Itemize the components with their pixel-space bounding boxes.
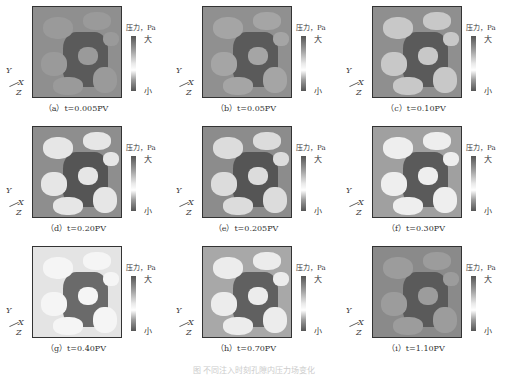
legend-title: 压力，Pa — [296, 22, 326, 32]
grain — [41, 292, 67, 316]
grain — [418, 287, 438, 305]
axis-y-label: Y — [176, 66, 181, 75]
grain — [43, 137, 73, 159]
grain — [41, 172, 67, 196]
panel-caption: （d）t=0.20PV — [0, 222, 152, 233]
grain — [433, 187, 457, 213]
grain — [53, 317, 83, 335]
axis-x-label: X — [188, 78, 194, 87]
grain — [248, 47, 268, 65]
grain — [103, 272, 119, 286]
grain — [443, 272, 459, 286]
colorbar — [471, 276, 476, 331]
axis-triad: YXZ — [344, 186, 370, 220]
axis-y-label: Y — [6, 186, 11, 195]
panel-caption: （f）t=0.30PV — [340, 222, 492, 233]
colorbar — [301, 156, 306, 211]
grain — [381, 292, 407, 316]
legend-high: 大 — [484, 153, 492, 164]
grain — [53, 77, 83, 95]
legend-low: 小 — [484, 205, 492, 216]
legend-high: 大 — [144, 273, 152, 284]
pressure-field-image — [32, 6, 122, 98]
axis-x-label: X — [18, 318, 24, 327]
axis-z-label: Z — [16, 88, 22, 97]
axis-z-label: Z — [16, 328, 22, 337]
grain — [223, 197, 253, 215]
axis-y-label: Y — [176, 306, 181, 315]
axis-z-label: Z — [186, 328, 192, 337]
figure-panel: 压力，Pa大小YXZ（a）t=0.005PV — [0, 2, 169, 119]
grain — [263, 67, 287, 93]
grain — [78, 167, 98, 185]
legend-low: 小 — [484, 325, 492, 336]
grain — [223, 77, 253, 95]
legend-high: 大 — [484, 273, 492, 284]
axis-x-label: X — [358, 198, 364, 207]
legend-high: 大 — [144, 33, 152, 44]
pressure-field-image — [32, 246, 122, 338]
colorbar — [131, 36, 136, 91]
grain — [393, 317, 423, 335]
grain — [248, 287, 268, 305]
grain — [213, 17, 243, 39]
grain — [83, 132, 111, 150]
axis-z-label: Z — [356, 88, 362, 97]
grain — [248, 167, 268, 185]
grain — [213, 137, 243, 159]
grain — [83, 12, 111, 30]
legend-high: 大 — [144, 153, 152, 164]
axis-y-label: Y — [6, 66, 11, 75]
axis-x-label: X — [18, 78, 24, 87]
pressure-field-image — [202, 6, 292, 98]
grain — [78, 287, 98, 305]
axis-x-label: X — [188, 198, 194, 207]
figure-panel: 压力，Pa大小YXZ（c）t=0.10PV — [340, 2, 508, 119]
legend-low: 小 — [314, 205, 322, 216]
legend-title: 压力，Pa — [466, 142, 496, 152]
legend-title: 压力，Pa — [466, 262, 496, 272]
colorbar — [301, 276, 306, 331]
panel-caption: （i）t=1.10PV — [340, 342, 492, 353]
axis-z-label: Z — [356, 208, 362, 217]
panel-caption: （b）t=0.05PV — [170, 102, 322, 113]
grain — [43, 257, 73, 279]
axis-z-label: Z — [186, 88, 192, 97]
panel-caption: （c）t=0.10PV — [340, 102, 492, 113]
grain — [273, 32, 289, 46]
pressure-field-image — [372, 246, 462, 338]
grain — [383, 17, 413, 39]
pressure-field-image — [202, 126, 292, 218]
figure-panel: 压力，Pa大小YXZ（f）t=0.30PV — [340, 122, 508, 239]
grain — [211, 172, 237, 196]
grain — [41, 52, 67, 76]
colorbar — [131, 276, 136, 331]
pressure-field-image — [372, 126, 462, 218]
grain — [273, 272, 289, 286]
axis-x-label: X — [18, 198, 24, 207]
axis-y-label: Y — [346, 306, 351, 315]
axis-triad: YXZ — [174, 186, 200, 220]
legend-title: 压力，Pa — [296, 262, 326, 272]
grain — [263, 307, 287, 333]
grain — [423, 252, 451, 270]
legend-low: 小 — [144, 205, 152, 216]
legend-low: 小 — [484, 85, 492, 96]
legend-title: 压力，Pa — [126, 142, 156, 152]
grain — [433, 67, 457, 93]
axis-y-label: Y — [176, 186, 181, 195]
grain — [418, 167, 438, 185]
colorbar — [301, 36, 306, 91]
grain — [213, 257, 243, 279]
grain — [83, 252, 111, 270]
grain — [443, 152, 459, 166]
grain — [211, 292, 237, 316]
grain — [223, 317, 253, 335]
figure-panel: 压力，Pa大小YXZ（b）t=0.05PV — [170, 2, 339, 119]
axis-x-label: X — [188, 318, 194, 327]
legend-title: 压力，Pa — [126, 262, 156, 272]
figure-panel: 压力，Pa大小YXZ（h）t=0.70PV — [170, 242, 339, 359]
colorbar — [131, 156, 136, 211]
grain — [418, 47, 438, 65]
legend-high: 大 — [314, 153, 322, 164]
